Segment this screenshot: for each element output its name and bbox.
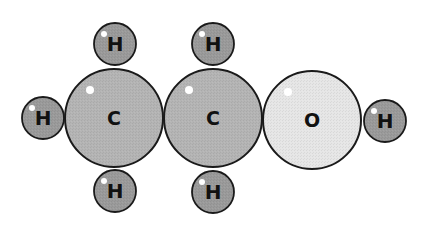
carbon-atom: C	[164, 69, 262, 167]
hydrogen-atom: H	[192, 171, 234, 213]
ethanol-molecule-diagram: HHHHHHCCO	[0, 0, 430, 234]
hydrogen-atom: H	[94, 170, 136, 212]
carbon-label: C	[206, 107, 220, 129]
hydrogen-atom: H	[22, 97, 64, 139]
oxygen-atom: O	[263, 71, 361, 169]
specular-highlight	[185, 86, 193, 94]
specular-highlight	[284, 88, 292, 96]
hydrogen-label: H	[35, 106, 52, 130]
hydrogen-atom: H	[364, 100, 406, 142]
hydrogen-label: H	[377, 109, 394, 133]
specular-highlight	[86, 86, 94, 94]
carbon-label: C	[107, 107, 121, 129]
oxygen-label: O	[304, 109, 320, 131]
hydrogen-label: H	[107, 179, 124, 203]
hydrogen-label: H	[205, 180, 222, 204]
hydrogen-atom: H	[94, 23, 136, 65]
hydrogen-atom: H	[192, 23, 234, 65]
hydrogen-label: H	[107, 32, 124, 56]
atoms-layer: HHHHHHCCO	[22, 23, 406, 213]
hydrogen-label: H	[205, 32, 222, 56]
carbon-atom: C	[65, 69, 163, 167]
